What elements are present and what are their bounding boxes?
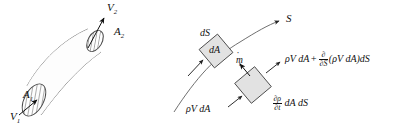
storage-partial-fraction: ∂ρ∂t	[273, 95, 283, 112]
outflow-arrow	[266, 62, 280, 73]
label-dS: dS	[200, 28, 210, 38]
inflow-arrow-upper	[188, 60, 203, 76]
label-outflow-flux-expression: ρV dA+∂∂S(ρV dA)dS	[285, 51, 370, 68]
label-inflow-flux: ρV dA	[186, 104, 210, 114]
figure-container: V2 A2 A1 V1 S dS dA ṁt ρV dA ρV dA+∂∂S(…	[0, 0, 404, 127]
label-inlet-velocity-V1: V1	[10, 111, 20, 125]
partial-derivative-fraction: ∂∂S	[319, 51, 329, 68]
label-inlet-area-A1: A1	[23, 89, 33, 103]
label-mass-flow-mdot: ṁt	[236, 56, 245, 68]
label-streamline-S: S	[286, 13, 292, 24]
label-storage-term-expression: ∂ρ∂tdA dS	[272, 95, 308, 112]
label-outlet-velocity-V2: V2	[107, 2, 117, 16]
label-dA: dA	[209, 45, 220, 55]
inflow-arrow-lower	[228, 96, 242, 107]
label-outlet-area-A2: A2	[114, 26, 124, 40]
streamline-path	[174, 21, 279, 112]
